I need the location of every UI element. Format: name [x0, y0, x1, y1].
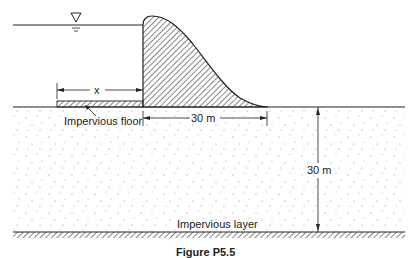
layer-depth-label: 30 m	[306, 164, 332, 176]
dam-body	[143, 16, 268, 107]
impervious-layer-label: Impervious layer	[176, 218, 259, 230]
figure-caption: Figure P5.5	[176, 246, 235, 258]
floor-length-label: x	[93, 84, 101, 96]
water-level-icon	[71, 13, 81, 31]
impervious-floor-label: Impervious floor	[63, 115, 143, 127]
base-width-label: 30 m	[190, 112, 216, 124]
impervious-floor	[57, 101, 143, 107]
impervious-layer	[13, 232, 405, 238]
